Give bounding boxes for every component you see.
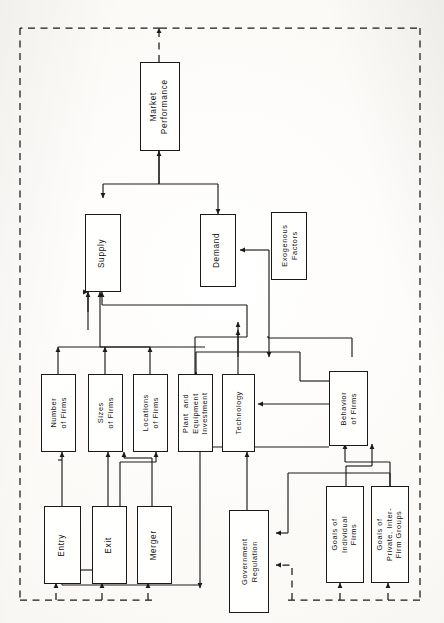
node-label: Plant and Equipment Investment: [181, 392, 210, 434]
node-label: Sizes of Firms: [96, 397, 115, 429]
node-locations-of-firms[interactable]: Locations of Firms: [133, 374, 168, 452]
node-label: Locations of Firms: [141, 394, 160, 431]
node-behavior-of-firms[interactable]: Behavior of Firms: [329, 371, 368, 446]
node-merger[interactable]: Merger: [137, 506, 172, 584]
node-label: Exit: [104, 537, 115, 554]
node-entry[interactable]: Entry: [44, 506, 81, 584]
node-government-regulation[interactable]: Government Regulation: [229, 510, 269, 613]
node-exogenous-factors[interactable]: Exogenous Factors: [271, 212, 307, 280]
node-goals-private-interfirm-groups[interactable]: Goals of Private, Inter- Firm Groups: [371, 486, 409, 583]
node-demand[interactable]: Demand: [200, 214, 236, 287]
node-plant-equipment-investment[interactable]: Plant and Equipment Investment: [178, 374, 213, 452]
node-goals-individual-firms[interactable]: Goals of Individual Firms: [326, 486, 364, 583]
node-exit[interactable]: Exit: [92, 506, 127, 584]
node-label: Number of Firms: [49, 397, 68, 429]
node-label: Exogenous Factors: [279, 225, 298, 267]
node-technology[interactable]: Technology: [222, 374, 255, 452]
node-label: Government Regulation: [239, 538, 258, 585]
node-label: Behavior of Firms: [339, 392, 358, 426]
node-market-performance[interactable]: Market Performance: [140, 62, 180, 151]
node-label: Demand: [213, 233, 224, 268]
node-number-of-firms[interactable]: Number of Firms: [41, 374, 76, 452]
node-supply[interactable]: Supply: [85, 214, 121, 292]
node-label: Technology: [234, 391, 244, 434]
node-label: Entry: [57, 534, 68, 557]
node-label: Merger: [149, 530, 160, 560]
node-label: Supply: [98, 238, 109, 268]
node-sizes-of-firms[interactable]: Sizes of Firms: [88, 374, 123, 452]
node-label: Market Performance: [149, 79, 170, 134]
node-label: Goals of Private, Inter- Firm Groups: [376, 508, 405, 561]
node-label: Goals of Individual Firms: [331, 516, 360, 553]
diagram-canvas: Market Performance Supply Demand Exogeno…: [0, 0, 444, 623]
